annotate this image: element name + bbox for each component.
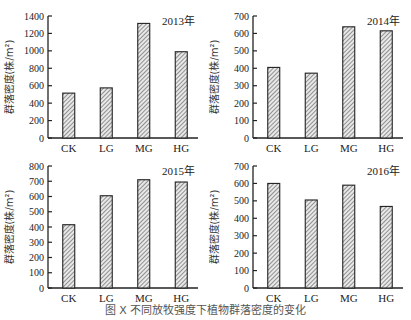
y-tick-label: 200: [234, 248, 249, 259]
y-axis-label: 群落密度(株/m²): [3, 189, 15, 264]
y-tick-label: 0: [244, 283, 249, 294]
y-tick-label: 200: [234, 98, 249, 109]
y-tick-label: 1400: [24, 11, 44, 22]
bar-hg: [175, 52, 187, 138]
y-axis-label: 群落密度(株/m²): [208, 39, 220, 114]
chart-2015: 群落密度(株/m²)0100200300400500600700800CKLGM…: [0, 150, 205, 300]
year-label: 2014年: [367, 14, 400, 27]
chart-2013: 群落密度(株/m²)0200400600800100012001400CKLGM…: [0, 0, 205, 150]
bar-lg: [305, 73, 317, 138]
y-tick-label: 700: [234, 161, 249, 172]
y-tick-label: 400: [29, 98, 44, 109]
bar-hg: [380, 206, 392, 288]
y-axis-label: 群落密度(株/m²): [208, 189, 220, 264]
y-tick-label: 300: [234, 230, 249, 241]
bar-mg: [343, 185, 355, 288]
y-tick-label: 700: [29, 176, 44, 187]
chart-svg: 群落密度(株/m²)0200400600800100012001400CKLGM…: [0, 0, 205, 150]
year-label: 2015年: [162, 164, 195, 177]
y-tick-label: 0: [39, 133, 44, 144]
chart-svg: 群落密度(株/m²)0100200300400500600700800CKLGM…: [0, 150, 205, 300]
bar-mg: [138, 180, 150, 288]
y-tick-label: 1200: [24, 28, 44, 39]
y-tick-label: 300: [234, 80, 249, 91]
y-tick-label: 200: [29, 115, 44, 126]
y-tick-label: 0: [244, 133, 249, 144]
bar-hg: [175, 182, 187, 288]
y-tick-label: 500: [29, 206, 44, 217]
y-tick-label: 100: [29, 267, 44, 278]
y-tick-label: 600: [29, 80, 44, 91]
bar-lg: [305, 200, 317, 288]
bar-ck: [268, 67, 280, 138]
y-tick-label: 100: [234, 265, 249, 276]
bar-mg: [138, 23, 150, 138]
bar-ck: [63, 93, 75, 138]
y-tick-label: 300: [29, 237, 44, 248]
bar-ck: [63, 225, 75, 288]
chart-2014: 群落密度(株/m²)0100200300400500600700CKLGMGHG…: [205, 0, 410, 150]
bar-ck: [268, 183, 280, 288]
y-tick-label: 700: [234, 11, 249, 22]
y-tick-label: 0: [39, 283, 44, 294]
y-tick-label: 400: [234, 213, 249, 224]
y-tick-label: 100: [234, 115, 249, 126]
y-tick-label: 1000: [24, 45, 44, 56]
y-tick-label: 500: [234, 195, 249, 206]
bar-hg: [380, 31, 392, 138]
y-tick-label: 600: [234, 28, 249, 39]
chart-svg: 群落密度(株/m²)0100200300400500600700CKLGMGHG…: [205, 0, 411, 150]
y-tick-label: 500: [234, 45, 249, 56]
year-label: 2016年: [367, 164, 400, 177]
bar-lg: [100, 196, 112, 288]
chart-2016: 群落密度(株/m²)0100200300400500600700CKLGMGHG…: [205, 150, 410, 300]
y-tick-label: 600: [234, 178, 249, 189]
bar-lg: [100, 88, 112, 138]
y-tick-label: 600: [29, 191, 44, 202]
y-tick-label: 200: [29, 252, 44, 263]
y-tick-label: 400: [29, 222, 44, 233]
y-tick-label: 800: [29, 63, 44, 74]
y-axis-label: 群落密度(株/m²): [3, 39, 15, 114]
y-tick-label: 800: [29, 161, 44, 172]
figure-caption: 图 X 不同放牧强度下植物群落密度的变化: [0, 301, 411, 317]
year-label: 2013年: [162, 14, 195, 27]
bar-mg: [343, 27, 355, 138]
chart-svg: 群落密度(株/m²)0100200300400500600700CKLGMGHG…: [205, 150, 411, 300]
y-tick-label: 400: [234, 63, 249, 74]
